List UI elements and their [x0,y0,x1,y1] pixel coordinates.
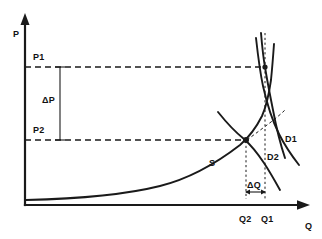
demand-curve-label-d2: D2 [267,153,279,162]
equilibrium-point-high [262,64,267,69]
delta-q-label: ΔQ [247,181,261,190]
y-axis-arrow-icon [21,13,30,25]
x-axis-label: Q [305,222,312,231]
price-label-p2: P2 [33,126,44,135]
price-label-p1: P1 [33,53,44,62]
diagram-canvas [0,0,322,239]
supply-curve-label: S [209,159,215,168]
equilibrium-point-low [243,137,249,143]
demand-curve-label-d1: D1 [285,135,297,144]
supply-demand-diagram: P Q P1 P2 ΔP ΔQ Q2 Q1 S D1 D2 [0,0,322,239]
demand-curve-d1-group [256,38,299,165]
delta-q-bracket [245,190,266,195]
delta-q-arrow-right-icon [261,190,266,195]
demand-curve-D1 [256,38,299,165]
x-axis-arrow-icon [297,200,310,209]
delta-p-label: ΔP [42,96,55,105]
delta-p-bracket [55,67,65,140]
axis-group [21,13,311,210]
y-axis-label: P [13,30,19,39]
demand-curve-d2-group [218,112,280,190]
quantity-label-q1: Q1 [261,215,273,224]
demand-curve-D2 [218,112,280,190]
quantity-label-q2: Q2 [239,215,251,224]
